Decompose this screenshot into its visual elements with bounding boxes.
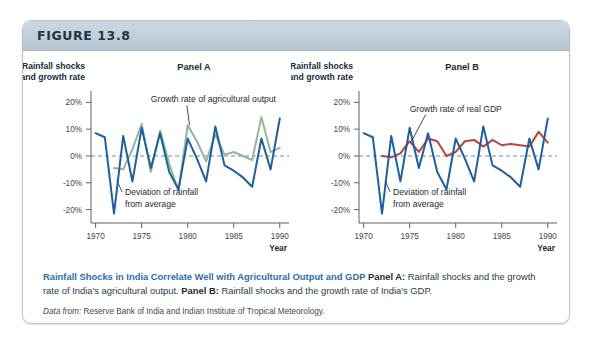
figure-number: FIGURE 13.8 [37,28,131,43]
x-axis-title: Year [537,243,555,253]
annotation-deviation-of-rainfall-line1: Deviation of rainfall [125,187,198,197]
source-text: Reserve Bank of India and Indian Institu… [81,307,324,316]
x-tick-label: 1975 [133,232,152,241]
source-line: Data from: Reserve Bank of India and Ind… [43,307,551,316]
panel-b-chart: Rainfall shocksand growth ratePanel B20%… [291,51,565,266]
x-tick-label: 1975 [401,232,420,241]
annotation-deviation-of-rainfall-line1: Deviation of rainfall [393,187,466,197]
series-line [96,118,280,213]
y-axis-title-line2: and growth rate [23,72,85,82]
y-axis-title-line2: and growth rate [291,72,353,82]
annotation-growth-rate-agricultural-output: Growth rate of agricultural output [151,94,277,104]
y-tick-label: -20% [63,206,82,215]
annotation-deviation-of-rainfall-line2: from average [125,199,176,209]
x-tick-label: 1990 [539,232,558,241]
y-tick-label: -10% [331,179,350,188]
x-tick-label: 1985 [225,232,244,241]
annotation-growth-rate-real-gdp: Growth rate of real GDP [410,104,502,114]
figure-header: FIGURE 13.8 [23,21,569,51]
y-tick-label: -20% [331,206,350,215]
source-prefix: Data from: [43,307,81,316]
caption-panel-b-label: Panel B: [181,285,219,296]
panel-title: Panel A [177,62,211,72]
x-tick-label: 1990 [271,232,290,241]
annotation-leader-line [411,115,425,141]
x-tick-label: 1970 [354,232,373,241]
y-tick-label: 0% [338,152,350,161]
y-tick-label: 10% [334,125,350,134]
y-axis-title-line1: Rainfall shocks [291,61,353,71]
y-tick-label: 20% [66,98,82,107]
annotation-deviation-of-rainfall-line2: from average [393,199,444,209]
caption-panel-b-text: Rainfall shocks and the growth rate of I… [219,285,432,296]
panels-container: Rainfall shocksand growth ratePanel A20%… [23,51,569,266]
caption-headline: Rainfall Shocks in India Correlate Well … [43,271,365,282]
annotation-leader-line [187,105,190,125]
figure-card: FIGURE 13.8 Rainfall shocksand growth ra… [22,20,570,324]
y-tick-label: 0% [70,152,82,161]
panel-title: Panel B [445,62,479,72]
series-line [114,117,280,191]
caption-panel-a-label: Panel A: [368,271,405,282]
y-tick-label: 10% [66,125,82,134]
panel-a-chart: Rainfall shocksand growth ratePanel A20%… [23,51,297,266]
y-axis-title-line1: Rainfall shocks [23,61,85,71]
y-tick-label: 20% [334,98,350,107]
x-axis-title: Year [269,243,287,253]
figure-caption: Rainfall Shocks in India Correlate Well … [43,270,551,298]
x-tick-label: 1985 [493,232,512,241]
y-tick-label: -10% [63,179,82,188]
series-line [364,118,548,213]
x-tick-label: 1970 [86,232,105,241]
caption-block: Rainfall Shocks in India Correlate Well … [23,266,569,316]
x-tick-label: 1980 [447,232,466,241]
x-tick-label: 1980 [179,232,198,241]
